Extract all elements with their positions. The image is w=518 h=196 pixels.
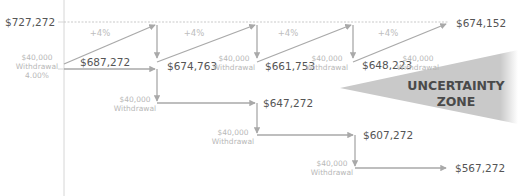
lower-withdrawal-3-amount: $40,000 — [316, 159, 347, 168]
value-674152: $674,152 — [456, 17, 506, 29]
initial-withdrawal-rate: 4.00% — [25, 71, 49, 80]
y-axis-top-value: $727,272 — [5, 16, 55, 28]
upper-withdrawal-2-label: Withdrawal — [306, 63, 348, 72]
initial-withdrawal-label: Withdrawal — [16, 62, 58, 71]
lower-withdrawal-2-amount: $40,000 — [217, 128, 248, 137]
growth-label-1: +4% — [90, 28, 111, 38]
value-647272: $647,272 — [263, 97, 313, 109]
initial-withdrawal-amount: $40,000 — [21, 53, 52, 62]
growth-label-4: +4% — [378, 28, 399, 38]
value-674763: $674,763 — [167, 60, 217, 72]
value-687272: $687,272 — [80, 56, 130, 68]
uncertainty-zone-title: UNCERTAINTY — [407, 78, 505, 93]
lower-withdrawal-3-label: Withdrawal — [311, 168, 353, 177]
upper-withdrawal-1-label: Withdrawal — [213, 63, 255, 72]
lower-withdrawal-1-amount: $40,000 — [119, 95, 150, 104]
lower-withdrawal-2-label: Withdrawal — [212, 137, 254, 146]
upper-withdrawal-2-amount: $40,000 — [311, 54, 342, 63]
value-648223: $648,223 — [362, 59, 412, 71]
withdrawal-sequence-diagram: $727,272 $40,000 Withdrawal 4.00% +4% +4… — [0, 0, 518, 196]
growth-label-3: +4% — [278, 28, 299, 38]
growth-label-2: +4% — [184, 28, 205, 38]
lower-withdrawal-1-label: Withdrawal — [114, 104, 156, 113]
uncertainty-zone-subtitle: ZONE — [437, 94, 476, 109]
upper-withdrawal-1-amount: $40,000 — [218, 54, 249, 63]
value-607272: $607,272 — [363, 129, 413, 141]
value-567272: $567,272 — [455, 162, 505, 174]
